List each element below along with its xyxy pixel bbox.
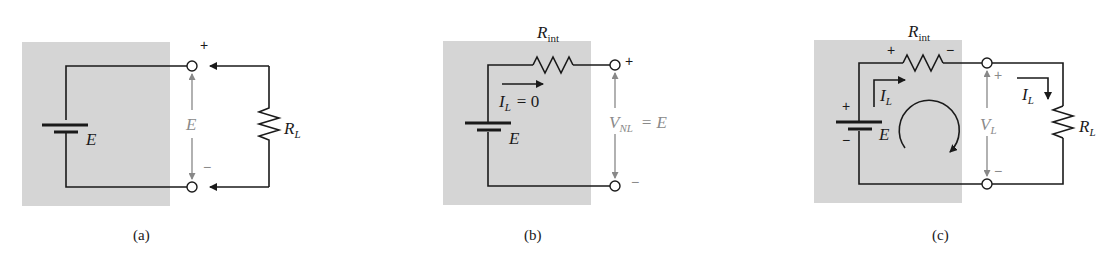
current-label-load: IL xyxy=(1021,85,1034,106)
source-minus: − xyxy=(842,132,850,148)
load-label: RL xyxy=(1078,117,1096,138)
minus-sign: − xyxy=(203,159,211,175)
source-plus: + xyxy=(842,98,850,114)
load-label: RL xyxy=(283,119,301,140)
circuit-figure: E + − E RL (a) Rint E IL= 0 + xyxy=(0,0,1114,275)
internal-resistor-minus: − xyxy=(946,42,954,58)
minus-sign: − xyxy=(994,163,1002,179)
caption: (a) xyxy=(133,227,150,244)
terminal-positive xyxy=(610,60,620,70)
terminal-negative xyxy=(610,181,620,191)
internal-resistor-label: Rint xyxy=(536,23,559,44)
source-label: E xyxy=(508,129,520,148)
terminal-positive xyxy=(187,61,197,71)
terminal-voltage-label: E xyxy=(185,115,197,134)
panel-a: E + − E RL (a) xyxy=(22,37,301,244)
load-bottom-wire xyxy=(992,138,1063,184)
current-label: IL= 0 xyxy=(498,92,539,113)
caption: (c) xyxy=(932,227,949,244)
terminal-voltage-label: VNL= E xyxy=(609,113,668,134)
terminal-negative xyxy=(187,182,197,192)
load-resistor-icon xyxy=(1053,106,1073,138)
source-label: E xyxy=(85,130,97,149)
panel-c: Rint + − + − E IL + − VL IL RL (c) xyxy=(814,22,1096,244)
load-resistor-icon xyxy=(259,66,279,187)
plus-sign: + xyxy=(200,37,208,53)
panel-b: Rint E IL= 0 + − VNL= E (b) xyxy=(443,23,668,244)
terminal-positive xyxy=(982,58,992,68)
source-label: E xyxy=(878,125,890,144)
caption: (b) xyxy=(524,227,542,244)
terminal-negative xyxy=(982,179,992,189)
internal-resistor-plus: + xyxy=(887,42,895,58)
internal-resistor-label: Rint xyxy=(907,22,930,43)
terminal-voltage-label: VL xyxy=(980,115,997,136)
plus-sign: + xyxy=(625,53,633,69)
minus-sign: − xyxy=(631,174,639,190)
plus-sign: + xyxy=(994,67,1002,83)
